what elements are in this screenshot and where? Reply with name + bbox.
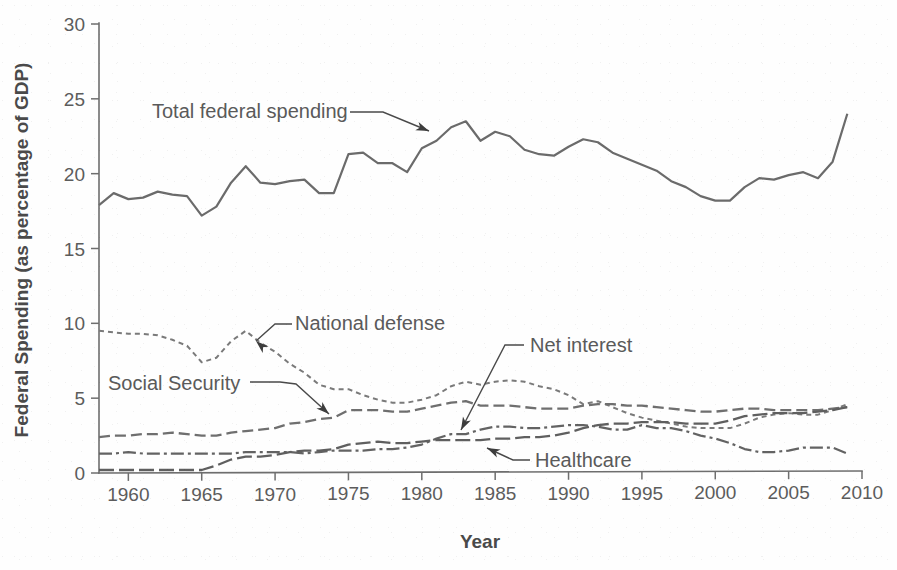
axis-ticks — [91, 24, 862, 481]
annotation-national-defense: National defense — [253, 312, 445, 353]
annotation-leader-line — [350, 112, 429, 131]
y-tick-label: 20 — [64, 164, 85, 185]
annotation-label: National defense — [295, 312, 445, 334]
federal-spending-line-chart: 051015202530 196019651970197519801985199… — [0, 0, 897, 570]
x-tick-label: 2000 — [694, 482, 736, 503]
y-tick-label: 0 — [74, 463, 85, 484]
x-axis-tick-labels: 1960196519701975198019851990199520002005… — [107, 482, 883, 505]
x-tick-label: 1995 — [621, 483, 663, 504]
annotation-leader-line — [256, 324, 292, 341]
series-line-healthcare — [99, 407, 847, 470]
x-tick-label: 2010 — [841, 482, 883, 503]
annotation-total-federal-spending: Total federal spending — [152, 100, 431, 135]
y-tick-label: 10 — [64, 313, 85, 334]
x-axis-line — [99, 471, 862, 473]
y-tick-label: 5 — [74, 388, 85, 409]
annotation-healthcare: Healthcare — [485, 444, 632, 471]
x-tick-label: 1990 — [547, 483, 589, 504]
series-line-total-federal-spending — [99, 114, 847, 216]
annotation-social-security: Social Security — [108, 372, 332, 417]
annotation-label: Healthcare — [535, 449, 632, 471]
y-tick-label: 30 — [64, 14, 85, 35]
x-tick-label: 1965 — [181, 484, 223, 505]
series-line-net-interest — [99, 425, 847, 453]
y-tick-label: 15 — [64, 239, 85, 260]
annotation-leader-line — [461, 345, 524, 430]
y-axis-title: Federal Spending (as percentage of GDP) — [11, 63, 32, 438]
chart-figure: 051015202530 196019651970197519801985199… — [0, 0, 897, 570]
data-series — [99, 114, 847, 470]
x-axis-title: Year — [460, 531, 501, 552]
annotation-arrow-head — [457, 416, 471, 432]
y-axis-tick-labels: 051015202530 — [64, 14, 85, 484]
annotation-label: Total federal spending — [152, 100, 348, 122]
annotation-arrow-head — [415, 122, 430, 135]
x-tick-label: 2005 — [767, 482, 809, 503]
x-tick-label: 1975 — [327, 483, 369, 504]
y-tick-label: 25 — [64, 89, 85, 110]
x-tick-label: 1960 — [107, 484, 149, 505]
x-tick-label: 1985 — [474, 483, 516, 504]
annotation-label: Net interest — [530, 334, 633, 356]
x-tick-label: 1980 — [401, 483, 443, 504]
annotation-net-interest: Net interest — [457, 334, 633, 432]
annotation-arrow-head — [485, 444, 501, 457]
x-tick-label: 1970 — [254, 484, 296, 505]
annotation-leader-line — [250, 382, 329, 414]
annotation-label: Social Security — [108, 372, 240, 394]
